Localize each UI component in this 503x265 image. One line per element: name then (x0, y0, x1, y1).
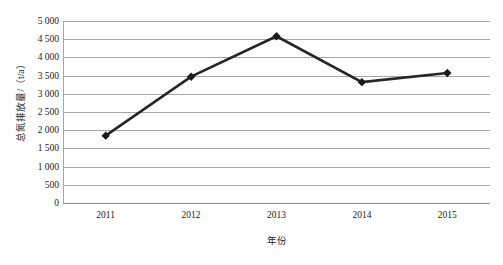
y-axis-tick-label: 1 500 (20, 143, 59, 153)
x-axis-title: 年份 (63, 234, 490, 248)
data-series-line (63, 21, 490, 203)
y-axis-tick-label: 0 (20, 198, 59, 208)
y-axis-tick-label: 3 000 (20, 89, 59, 99)
gridline (63, 203, 490, 204)
x-axis-tick-label: 2013 (247, 208, 307, 222)
x-axis-tick-label: 2015 (417, 208, 477, 222)
x-axis-tick-label: 2012 (161, 208, 221, 222)
y-axis-tick-label: 1 000 (20, 162, 59, 172)
y-axis-tick-label: 3 500 (20, 71, 59, 81)
y-axis-tick-label: 2 500 (20, 107, 59, 117)
plot-area (63, 21, 490, 203)
y-axis-tick-label: 4 000 (20, 52, 59, 62)
y-axis-tick-label: 4 500 (20, 34, 59, 44)
x-axis-tick-label: 2011 (76, 208, 136, 222)
y-axis-tick-label: 5 000 (20, 16, 59, 26)
series-line (106, 36, 448, 135)
x-axis-tick-labels: 20112012201320142015 (63, 208, 490, 222)
y-axis-tick-label: 2 000 (20, 125, 59, 135)
data-point-marker (443, 69, 451, 77)
line-chart: 总氮排放量/（t/a） 5 0004 5004 0003 5003 0002 5… (0, 0, 503, 265)
y-axis-tick-label: 500 (20, 180, 59, 190)
x-axis-tick-label: 2014 (332, 208, 392, 222)
y-axis-tick-labels: 5 0004 5004 0003 5003 0002 5002 0001 500… (20, 21, 59, 203)
